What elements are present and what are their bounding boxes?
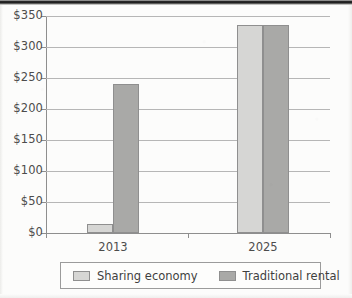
y-axis-tick-label: $100 (0, 163, 43, 177)
y-axis-tick-label: $50 (0, 194, 43, 208)
y-axis-tick-label: $150 (0, 132, 43, 146)
scan-edge-artifact-top (0, 0, 352, 5)
light-gray-swatch-icon (73, 271, 90, 281)
chart-figure: $0$50$100$150$200$250$300$350 20132025 S… (0, 0, 352, 298)
chart-legend: Sharing economy Traditional rental (60, 262, 321, 289)
x-axis-tick-label: 2013 (73, 240, 153, 254)
legend-item-sharing-economy: Sharing economy (73, 269, 198, 283)
plot-area (46, 16, 330, 233)
y-axis-tick-label: $250 (0, 70, 43, 84)
y-axis-tick-label: $200 (0, 101, 43, 115)
bar-2025-sharing-economy (237, 25, 263, 233)
y-axis-tick-label: $0 (0, 225, 43, 239)
x-axis-tick (330, 233, 331, 238)
dark-gray-swatch-icon (219, 271, 236, 281)
scan-edge-artifact-right (348, 5, 352, 298)
y-axis-tick-label: $350 (0, 8, 43, 22)
gridline (46, 16, 330, 17)
bar-2025-traditional-rental (263, 25, 289, 233)
bar-2013-sharing-economy (87, 224, 113, 233)
x-axis-tick (188, 233, 189, 238)
scan-edge-artifact-bottom (0, 294, 352, 298)
legend-item-traditional-rental: Traditional rental (219, 269, 340, 283)
bar-2013-traditional-rental (113, 84, 139, 233)
x-axis-tick (46, 233, 47, 238)
y-axis-tick-label: $300 (0, 39, 43, 53)
legend-label: Sharing economy (97, 269, 198, 283)
x-axis-tick-label: 2025 (223, 240, 303, 254)
legend-label: Traditional rental (243, 269, 340, 283)
